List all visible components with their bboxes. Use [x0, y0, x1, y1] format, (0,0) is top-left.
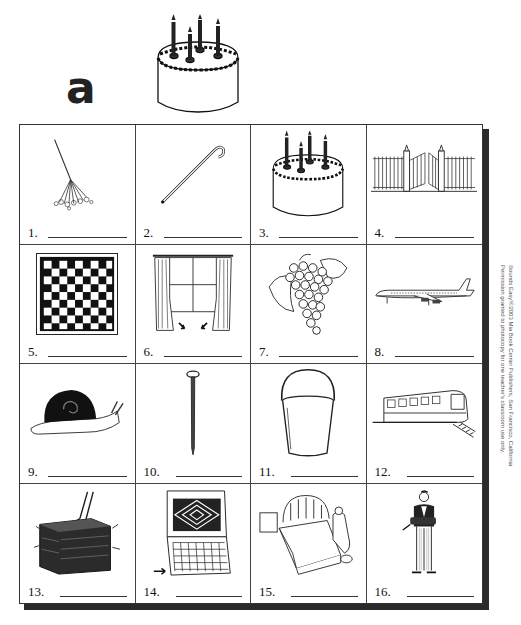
item-number: 8. — [375, 344, 385, 359]
item-number: 13. — [28, 584, 44, 599]
worksheet-item-6: 6. — [136, 245, 252, 365]
worksheet-item-8: 8. — [367, 245, 483, 365]
worksheet-item-11: 11. — [251, 364, 367, 484]
worksheet-item-3: 3. — [251, 125, 367, 245]
grapes-icon — [265, 249, 351, 339]
worksheet-item-12: 12. — [367, 364, 483, 484]
worksheet-item-5: 5. — [20, 245, 136, 365]
snail-icon — [29, 384, 125, 442]
item-number: 2. — [144, 225, 154, 240]
train-icon — [372, 385, 476, 441]
answer-blank[interactable] — [395, 237, 475, 238]
item-number: 6. — [144, 344, 154, 359]
bed-praying-icon — [258, 491, 358, 575]
answer-blank[interactable] — [395, 356, 475, 357]
cake-icon — [268, 130, 348, 218]
item-number: 7. — [259, 344, 269, 359]
item-number: 15. — [259, 584, 275, 599]
calendar-icon — [150, 489, 236, 577]
item-number: 12. — [375, 464, 391, 479]
item-number: 3. — [259, 225, 269, 240]
worksheet-grid: 1. 2. 3. — [19, 124, 483, 604]
gate-icon — [371, 145, 477, 203]
worksheet-item-1: 1. — [20, 125, 136, 245]
item-number: 16. — [375, 584, 391, 599]
copyright-notice: Sounds Easy!©2003 Mia Book Center Publis… — [493, 265, 517, 505]
answer-blank[interactable] — [291, 476, 358, 477]
checkerboard-icon — [36, 253, 118, 335]
answer-blank[interactable] — [279, 237, 358, 238]
answer-blank[interactable] — [164, 356, 243, 357]
worksheet-item-7: 7. — [251, 245, 367, 365]
worksheet-item-14: 14. — [136, 484, 252, 604]
waiter-icon — [401, 488, 447, 580]
answer-blank[interactable] — [407, 476, 475, 477]
answer-blank[interactable] — [60, 596, 127, 597]
answer-blank[interactable] — [291, 596, 358, 597]
cane-icon — [153, 134, 233, 214]
worksheet-item-13: 13. — [20, 484, 136, 604]
rake-icon — [37, 134, 117, 214]
worksheet-item-16: 16. — [367, 484, 483, 604]
copyright-line-1: Sounds Easy!©2003 Mia Book Center Publis… — [507, 265, 515, 505]
item-number: 1. — [28, 225, 38, 240]
item-number: 14. — [144, 584, 160, 599]
worksheet-item-2: 2. — [136, 125, 252, 245]
target-letter: a — [66, 66, 95, 110]
worksheet-item-9: 9. — [20, 364, 136, 484]
nail-icon — [180, 368, 206, 459]
answer-blank[interactable] — [279, 356, 358, 357]
window-drapes-icon — [151, 252, 235, 336]
airplane-icon — [372, 275, 476, 313]
item-number: 9. — [28, 464, 38, 479]
item-number: 5. — [28, 344, 38, 359]
worksheet-item-10: 10. — [136, 364, 252, 484]
item-number: 11. — [259, 464, 275, 479]
pail-icon — [275, 368, 341, 459]
answer-blank[interactable] — [48, 476, 127, 477]
copyright-line-2: Permission granted to photocopy for one … — [499, 265, 507, 505]
answer-blank[interactable] — [407, 596, 475, 597]
answer-blank[interactable] — [176, 596, 243, 597]
worksheet-item-4: 4. — [367, 125, 483, 245]
answer-blank[interactable] — [48, 237, 127, 238]
answer-blank[interactable] — [48, 356, 127, 357]
item-number: 4. — [375, 225, 385, 240]
hay-bale-icon — [34, 490, 120, 576]
worksheet-item-15: 15. — [251, 484, 367, 604]
answer-blank[interactable] — [164, 237, 243, 238]
header-cake-icon — [152, 14, 244, 114]
answer-blank[interactable] — [176, 476, 243, 477]
item-number: 10. — [144, 464, 160, 479]
